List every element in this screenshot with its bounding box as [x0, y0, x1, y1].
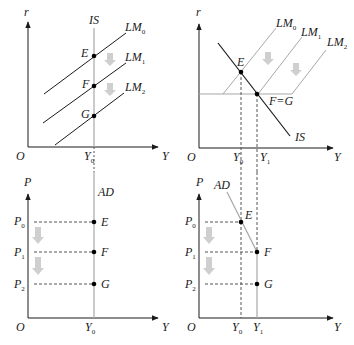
- shift-down-arrow-icon: [262, 52, 274, 65]
- ad-label: AD: [97, 185, 114, 199]
- x-axis-label: Y: [334, 320, 342, 334]
- panel-top-right: r O Y LM0 LM1 LM2 IS E F=G Y0 Y1: [187, 5, 348, 172]
- point-g: [255, 282, 260, 287]
- y0-tick-label: Y0: [233, 150, 244, 166]
- point-g: [92, 114, 97, 119]
- lm2-label: LM2: [124, 80, 146, 96]
- point-g-label: G: [264, 277, 273, 291]
- x-axis-label: Y: [162, 320, 170, 334]
- point-f-label: F: [81, 77, 90, 91]
- point-f: [92, 250, 97, 255]
- point-f-label: F: [100, 245, 109, 259]
- point-fg: [255, 92, 260, 97]
- p1-label: P1: [184, 245, 196, 261]
- lm1-label: LM1: [300, 25, 322, 41]
- origin-label: O: [16, 320, 25, 334]
- panel-bottom-left: P O Y AD P0 P1 P2 E F G Y0: [13, 172, 170, 336]
- point-e-label: E: [80, 46, 89, 60]
- point-e-label: E: [100, 215, 109, 229]
- shift-down-arrow-icon: [32, 227, 44, 244]
- point-e: [239, 70, 244, 75]
- p2-label: P2: [13, 277, 25, 293]
- y0-tick-label: Y0: [84, 149, 95, 165]
- point-f: [255, 250, 260, 255]
- y1-tick-label: Y1: [260, 150, 271, 166]
- x-axis-label: Y: [334, 150, 342, 164]
- lm2-label: LM2: [326, 35, 348, 51]
- x-axis-label: Y: [162, 149, 170, 163]
- point-e-label: E: [244, 208, 253, 222]
- point-e: [92, 220, 97, 225]
- is-label: IS: [88, 13, 99, 27]
- p2-label: P2: [184, 277, 196, 293]
- y1-tick-label: Y1: [253, 320, 264, 336]
- is-label: IS: [294, 130, 305, 144]
- ad-label: AD: [213, 178, 230, 192]
- origin-label: O: [187, 150, 196, 164]
- point-e: [239, 220, 244, 225]
- point-g-label: G: [101, 277, 110, 291]
- shift-down-arrow-icon: [203, 257, 215, 275]
- shift-down-arrow-icon: [104, 53, 116, 66]
- panel-bottom-right: P O Y AD P0 P1 P2 E F G Y0 Y1: [184, 172, 342, 336]
- point-g: [92, 282, 97, 287]
- p0-label: P0: [184, 214, 196, 230]
- shift-down-arrow-icon: [290, 63, 302, 76]
- lm1-label: LM1: [124, 50, 146, 66]
- p0-label: P0: [13, 214, 25, 230]
- y-axis-label: P: [195, 175, 204, 189]
- origin-label: O: [187, 320, 196, 334]
- y0-tick-label: Y0: [232, 320, 243, 336]
- shift-down-arrow-icon: [104, 83, 116, 96]
- p1-label: P1: [13, 245, 25, 261]
- islm-ad-diagram: r O Y IS LM0 LM1 LM2 E F G Y0 r O Y: [0, 0, 354, 345]
- y-axis-label: P: [23, 175, 32, 189]
- point-g-label: G: [81, 107, 90, 121]
- lm0-label: LM0: [124, 20, 146, 36]
- origin-label: O: [16, 149, 25, 163]
- point-e: [92, 54, 97, 59]
- y0-tick-label: Y0: [85, 320, 96, 336]
- point-fg-label: F=G: [268, 94, 293, 108]
- y-axis-label: r: [196, 5, 201, 19]
- point-e-label: E: [236, 55, 245, 69]
- ad-curve: [227, 192, 257, 318]
- is-curve: [218, 43, 290, 136]
- point-f-label: F: [263, 245, 272, 259]
- panel-top-left: r O Y IS LM0 LM1 LM2 E F G Y0: [16, 5, 170, 172]
- shift-down-arrow-icon: [203, 227, 215, 244]
- shift-down-arrow-icon: [32, 257, 44, 275]
- y-axis-label: r: [24, 5, 29, 19]
- point-f: [92, 84, 97, 89]
- lm0-label: LM0: [275, 16, 297, 32]
